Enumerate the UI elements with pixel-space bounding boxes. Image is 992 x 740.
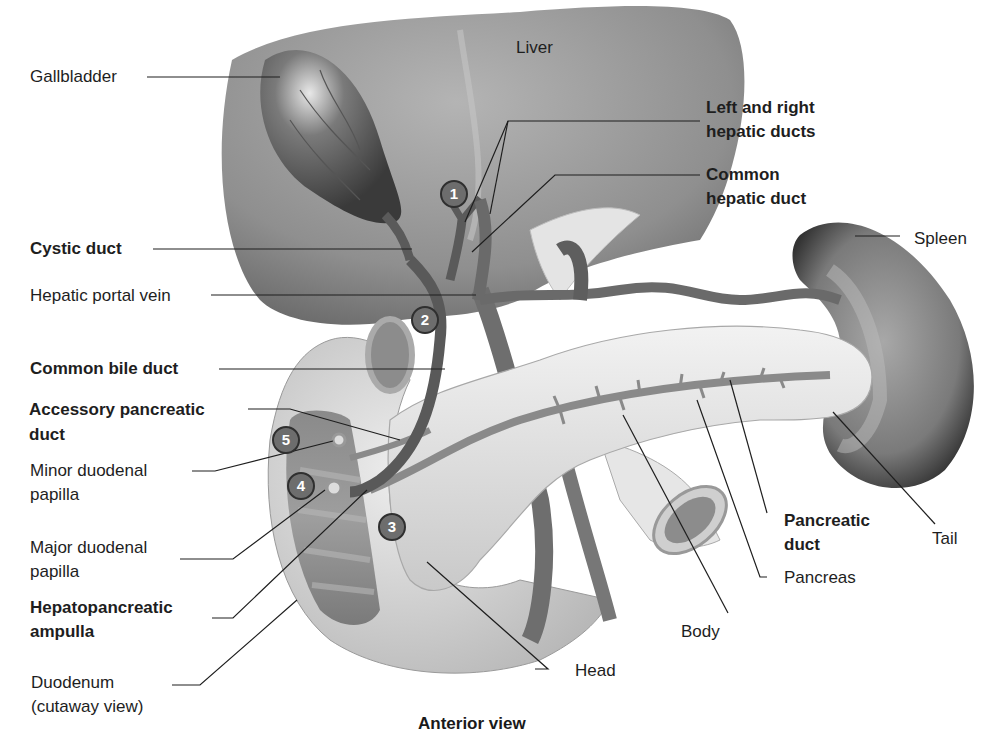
duodenum-label-line2: (cutaway view) [31, 696, 143, 717]
spleen-label: Spleen [914, 228, 967, 249]
pancreatic-duct-label-line2: duct [784, 534, 820, 555]
cystic-duct-label: Cystic duct [30, 238, 122, 259]
marker-2: 2 [411, 306, 439, 334]
minor-papilla [333, 434, 345, 446]
gallbladder-label: Gallbladder [30, 66, 117, 87]
hepatic-ducts-label: Left and right [706, 97, 815, 118]
tail-label: Tail [932, 528, 958, 549]
marker-5: 5 [272, 426, 300, 454]
major-papilla [327, 481, 341, 495]
hepatopancreatic-ampulla-label-line2: ampulla [30, 621, 94, 642]
hepatopancreatic-ampulla-label: Hepatopancreatic [30, 597, 173, 618]
figure-caption: Anterior view [418, 714, 526, 734]
common-hepatic-duct-label: Common [706, 164, 780, 185]
duodenum-label: Duodenum [31, 672, 114, 693]
marker-1: 1 [440, 180, 468, 208]
minor-duodenal-papilla-label-line2: papilla [30, 484, 79, 505]
pancreas-label: Pancreas [784, 567, 856, 588]
hepatic-portal-vein-label: Hepatic portal vein [30, 285, 171, 306]
accessory-pancreatic-duct-label-line2: duct [29, 424, 65, 445]
accessory-pancreatic-duct-label: Accessory pancreatic [29, 399, 205, 420]
marker-4: 4 [287, 472, 315, 500]
hepatic-ducts-label-line2: hepatic ducts [706, 121, 816, 142]
liver-label: Liver [516, 37, 553, 58]
common-hepatic-duct-label-line2: hepatic duct [706, 188, 806, 209]
minor-duodenal-papilla-label: Minor duodenal [30, 460, 147, 481]
pancreatic-duct-label: Pancreatic [784, 510, 870, 531]
major-duodenal-papilla-label: Major duodenal [30, 537, 147, 558]
body-label: Body [681, 621, 720, 642]
head-label: Head [575, 660, 616, 681]
marker-3: 3 [378, 513, 406, 541]
common-bile-duct-label: Common bile duct [30, 358, 178, 379]
major-duodenal-papilla-label-line2: papilla [30, 561, 79, 582]
